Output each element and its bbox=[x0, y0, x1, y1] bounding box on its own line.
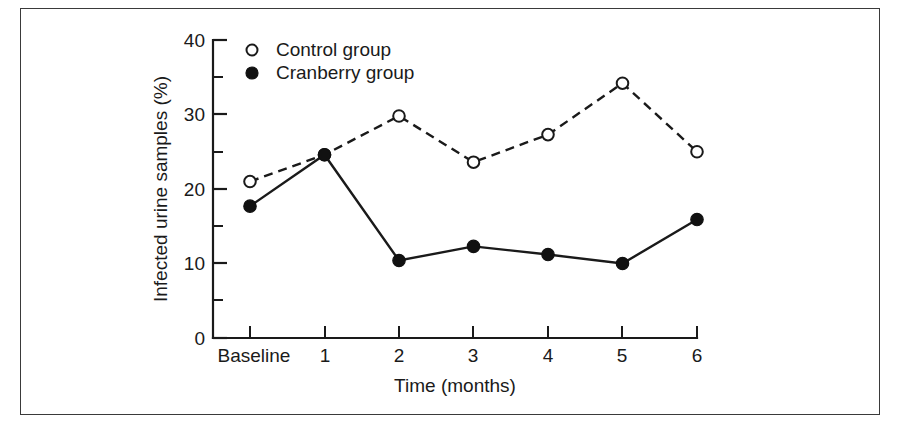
x-tick-label-6: 6 bbox=[692, 345, 703, 366]
x-tick-label-3: 3 bbox=[468, 345, 479, 366]
data-point-filled-circle bbox=[691, 213, 703, 225]
legend-label-control-group: Control group bbox=[276, 39, 391, 60]
data-point-filled-circle bbox=[318, 149, 330, 161]
y-tick-label-10: 10 bbox=[184, 253, 205, 274]
chart-legend: Control group Cranberry group bbox=[246, 39, 414, 83]
x-axis-tick-labels: Baseline 1 2 3 4 5 6 bbox=[218, 345, 703, 366]
data-point-filled-circle bbox=[616, 257, 628, 269]
data-point-filled-circle bbox=[393, 254, 405, 266]
open-circle-icon bbox=[247, 45, 258, 56]
line-chart: 40 30 20 10 0 Baseline 1 2 3 4 5 6 Tim bbox=[0, 0, 903, 429]
legend-label-cranberry-group: Cranberry group bbox=[276, 62, 414, 83]
data-point-open-circle bbox=[393, 110, 405, 122]
y-tick-label-40: 40 bbox=[184, 30, 205, 51]
x-tick-label-baseline: Baseline bbox=[218, 345, 291, 366]
data-point-open-circle bbox=[244, 176, 256, 188]
data-point-open-circle bbox=[542, 129, 554, 141]
x-tick-label-5: 5 bbox=[617, 345, 628, 366]
filled-circle-icon bbox=[246, 67, 258, 79]
y-axis-title: Infected urine samples (%) bbox=[150, 76, 171, 302]
figure-page: 40 30 20 10 0 Baseline 1 2 3 4 5 6 Tim bbox=[0, 0, 903, 429]
x-axis-ticks bbox=[250, 326, 697, 338]
y-axis-tick-labels: 40 30 20 10 0 bbox=[184, 30, 205, 349]
y-tick-label-0: 0 bbox=[194, 328, 205, 349]
data-point-filled-circle bbox=[244, 200, 256, 212]
data-point-open-circle bbox=[617, 77, 629, 89]
data-point-filled-circle bbox=[542, 248, 554, 260]
y-axis-major-ticks bbox=[213, 40, 227, 338]
data-point-open-circle bbox=[691, 146, 703, 158]
data-point-open-circle bbox=[468, 156, 480, 168]
data-point-filled-circle bbox=[467, 240, 479, 252]
legend-item-cranberry-group: Cranberry group bbox=[246, 62, 414, 83]
x-axis-title: Time (months) bbox=[394, 375, 516, 396]
y-tick-label-20: 20 bbox=[184, 179, 205, 200]
x-tick-label-4: 4 bbox=[543, 345, 554, 366]
legend-item-control-group: Control group bbox=[247, 39, 392, 60]
y-tick-label-30: 30 bbox=[184, 104, 205, 125]
x-tick-label-2: 2 bbox=[394, 345, 405, 366]
x-tick-label-1: 1 bbox=[320, 345, 331, 366]
